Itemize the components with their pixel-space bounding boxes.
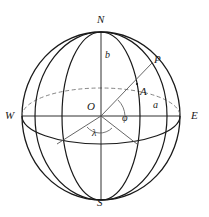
label-east: E — [191, 110, 198, 121]
label-point-P: P — [154, 54, 161, 65]
ellipsoid-diagram: N S W E O A P b a λ φ — [0, 0, 209, 217]
label-longitude-lambda: λ — [92, 128, 96, 138]
radius-lower-right — [101, 116, 137, 144]
label-point-A: A — [140, 86, 147, 97]
label-north-pole: N — [97, 14, 104, 25]
label-semi-major-axis-a: a — [153, 100, 158, 110]
sphere-drawing — [0, 0, 209, 217]
label-south-pole: S — [97, 197, 103, 208]
label-semi-minor-axis-b: b — [105, 50, 110, 60]
lambda-angle-arc — [87, 127, 112, 133]
label-center-O: O — [87, 101, 95, 112]
label-latitude-phi: φ — [122, 113, 128, 123]
point-A-marker — [136, 83, 138, 85]
label-west: W — [5, 110, 14, 121]
